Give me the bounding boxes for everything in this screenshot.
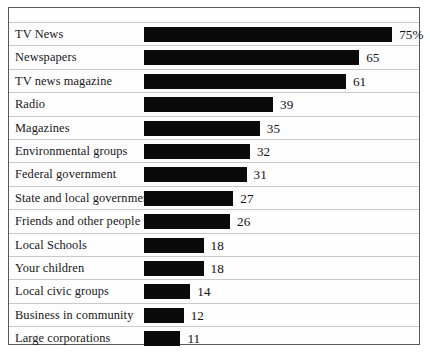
bar-value-label: 14	[197, 280, 210, 303]
bar-category-label: Radio	[15, 93, 45, 116]
bar-category-label: Federal government	[15, 163, 116, 186]
bar-row: Environmental groups32	[9, 139, 419, 162]
bar-category-label: Local civic groups	[15, 280, 109, 303]
bar-value-label: 61	[353, 70, 366, 93]
bar-plot-area: 18	[144, 234, 419, 257]
bar-value-label: 35	[267, 117, 280, 140]
bar-category-label: State and local government	[15, 187, 153, 210]
bar-category-label: Your children	[15, 257, 84, 280]
chart-frame: TV News75%Newspapers65TV news magazine61…	[8, 7, 420, 345]
bar-plot-area: 75%	[144, 23, 419, 46]
bar-row: Your children18	[9, 256, 419, 279]
bar-plot-area: 61	[144, 70, 419, 93]
bar	[144, 191, 233, 206]
bar-plot-area: 27	[144, 187, 419, 210]
bar	[144, 97, 273, 112]
bar-plot-area: 31	[144, 163, 419, 186]
bar-value-label: 31	[254, 163, 267, 186]
bar-plot-area: 35	[144, 117, 419, 140]
bar-plot-area: 12	[144, 304, 419, 327]
bar	[144, 214, 230, 229]
bar-row: Local Schools18	[9, 233, 419, 256]
bar-value-label: 27	[240, 187, 253, 210]
bar-value-label: 75%	[399, 23, 423, 46]
bar-row: State and local government27	[9, 186, 419, 209]
bar	[144, 238, 204, 253]
bar-category-label: Magazines	[15, 117, 70, 140]
bar-plot-area: 32	[144, 140, 419, 163]
bar-value-label: 39	[280, 93, 293, 116]
bar	[144, 167, 247, 182]
bar-category-label: TV News	[15, 23, 63, 46]
bar-plot-area: 18	[144, 257, 419, 280]
bar-value-label: 65	[366, 46, 379, 69]
bar-category-label: Environmental groups	[15, 140, 127, 163]
bar-category-label: Large corporations	[15, 327, 111, 350]
bar-row: Business in community12	[9, 303, 419, 326]
bar-row: TV news magazine61	[9, 69, 419, 92]
bar-chart-rows: TV News75%Newspapers65TV news magazine61…	[9, 22, 419, 349]
bar-value-label: 18	[211, 234, 224, 257]
bar	[144, 331, 180, 346]
bar-value-label: 32	[257, 140, 270, 163]
bar-category-label: Business in community	[15, 304, 133, 327]
bar-row: Newspapers65	[9, 45, 419, 68]
bar-row: Magazines35	[9, 116, 419, 139]
bar	[144, 50, 359, 65]
bar	[144, 27, 392, 42]
bar-plot-area: 11	[144, 327, 419, 350]
bar-row: Friends and other people26	[9, 209, 419, 232]
bar	[144, 284, 190, 299]
bar-value-label: 18	[211, 257, 224, 280]
bar-plot-area: 65	[144, 46, 419, 69]
bar-row: Radio39	[9, 92, 419, 115]
bar-value-label: 11	[187, 327, 200, 350]
bar-category-label: Friends and other people	[15, 210, 140, 233]
bar	[144, 74, 346, 89]
bar-plot-area: 14	[144, 280, 419, 303]
bar	[144, 261, 204, 276]
bar-plot-area: 26	[144, 210, 419, 233]
bar-plot-area: 39	[144, 93, 419, 116]
bar-row: Local civic groups14	[9, 279, 419, 302]
bar	[144, 121, 260, 136]
bar-value-label: 26	[237, 210, 250, 233]
bar-category-label: TV news magazine	[15, 70, 112, 93]
bar	[144, 308, 184, 323]
bar	[144, 144, 250, 159]
bar-value-label: 12	[191, 304, 204, 327]
bar-category-label: Newspapers	[15, 46, 77, 69]
bar-row: Federal government31	[9, 162, 419, 185]
bar-row: Large corporations11	[9, 326, 419, 349]
bar-category-label: Local Schools	[15, 234, 87, 257]
bar-row: TV News75%	[9, 22, 419, 45]
